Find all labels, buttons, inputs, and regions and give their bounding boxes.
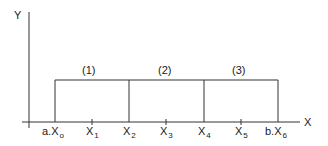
tick-label-x6: b.X6 xyxy=(265,126,287,138)
tick-label-x3: X3 xyxy=(160,126,173,138)
y-axis-label: Y xyxy=(14,10,21,21)
tick-label-x5: X5 xyxy=(235,126,248,138)
tick-label-x0: a.Xo xyxy=(42,126,64,138)
tick-label-x1: X1 xyxy=(86,126,99,138)
interval-label-3: (3) xyxy=(232,65,245,76)
tick-label-x4: X4 xyxy=(198,126,211,138)
tick-label-x2: X2 xyxy=(123,126,136,138)
interval-label-2: (2) xyxy=(158,65,171,76)
interval-label-1: (1) xyxy=(82,65,95,76)
x-axis-label: X xyxy=(304,117,311,128)
